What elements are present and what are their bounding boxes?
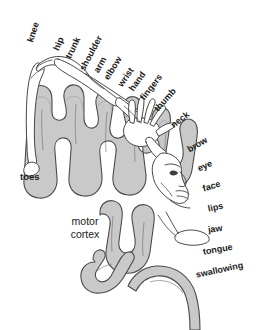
motor-cortex-line2: cortex bbox=[71, 228, 100, 241]
label-toes: toes bbox=[20, 172, 40, 183]
label-motor-cortex: motor cortex bbox=[71, 215, 100, 241]
body-tongue bbox=[175, 230, 209, 245]
homunculus-diagram bbox=[0, 0, 271, 330]
motor-cortex-line1: motor bbox=[71, 215, 100, 228]
motor-homunculus-figure: kneehiptrunkshoulderarmelbowwristhandfin… bbox=[0, 0, 271, 330]
label-jaw: jaw bbox=[207, 223, 223, 235]
cortex-band-temporal bbox=[128, 266, 200, 330]
finger-1 bbox=[129, 100, 136, 123]
body-throat bbox=[166, 212, 178, 233]
